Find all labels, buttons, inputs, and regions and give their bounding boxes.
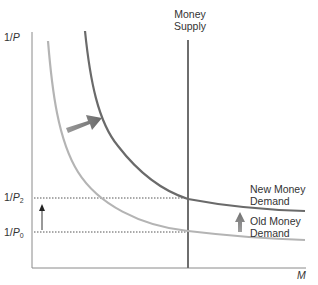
y-axis-label-var: P	[13, 31, 20, 43]
y-axis-label-base: 1/	[4, 31, 13, 43]
money-market-chart	[0, 0, 318, 285]
old-money-demand-label: Old Money Demand	[250, 215, 301, 239]
tick-label-p0: 1/P0	[4, 226, 24, 242]
tick-p2-sub: 2	[20, 197, 24, 204]
y-axis-label: 1/P	[4, 31, 20, 43]
tick-p0-base: 1/	[4, 226, 13, 238]
tick-p2-base: 1/	[4, 191, 13, 203]
tick-p2-var: P	[13, 191, 20, 203]
tick-p0-var: P	[13, 226, 20, 238]
new-money-demand-label-line2: Demand	[250, 195, 305, 207]
old-money-demand-label-line2: Demand	[250, 227, 301, 239]
money-supply-label: Money Supply	[168, 8, 212, 32]
new-money-demand-label: New Money Demand	[250, 183, 305, 207]
x-axis-label-var: M	[297, 269, 306, 281]
tick-label-p2: 1/P2	[4, 191, 24, 207]
shift-arrow-right-icon	[66, 115, 102, 133]
money-supply-label-line2: Supply	[168, 20, 212, 32]
new-money-demand-label-line1: New Money	[250, 183, 305, 195]
old-money-demand-label-line1: Old Money	[250, 215, 301, 227]
x-axis-label: M	[297, 269, 306, 281]
price-increase-arrow-icon	[39, 204, 45, 230]
tick-p0-sub: 0	[20, 232, 24, 239]
shift-arrow-up-icon	[235, 212, 245, 232]
money-supply-label-line1: Money	[168, 8, 212, 20]
